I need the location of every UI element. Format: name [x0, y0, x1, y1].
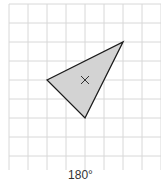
- rotation-angle-label: 180°: [0, 168, 161, 182]
- rotation-grid-diagram: [0, 0, 161, 170]
